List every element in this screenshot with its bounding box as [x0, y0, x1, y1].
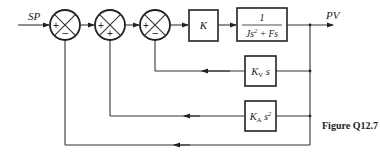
sum1-plus-sign: +: [53, 20, 59, 31]
gain-label: K: [199, 19, 208, 31]
figure-caption: Figure Q12.7: [322, 120, 378, 131]
sum3-minus-sign: −: [152, 27, 158, 39]
sum2-plus-sign-left: +: [98, 20, 104, 31]
sum2-plus-sign-bottom: +: [107, 28, 113, 39]
plant-denominator: Js2 + Fs: [246, 27, 278, 39]
summing-junction-3: + −: [140, 10, 170, 40]
sum3-plus-sign: +: [143, 20, 149, 31]
summing-junction-1: + −: [50, 10, 80, 40]
block-diagram: SP + − + + + − K 1 Js2 + Fs PV: [0, 0, 380, 155]
plant-numerator: 1: [260, 12, 265, 23]
summing-junction-2: + +: [95, 10, 125, 40]
sum1-minus-sign: −: [62, 27, 68, 39]
sp-label: SP: [28, 10, 41, 22]
pv-label: PV: [325, 9, 341, 21]
